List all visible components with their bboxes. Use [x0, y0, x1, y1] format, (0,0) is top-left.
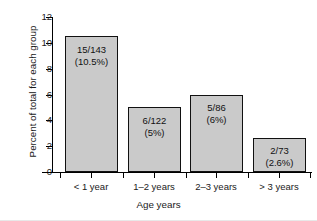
x-tick-4 — [310, 173, 311, 178]
y-tick-label-2: 2 — [36, 141, 52, 151]
x-tick-3 — [248, 173, 249, 178]
x-category-label-2: 2–3 years — [183, 181, 249, 192]
x-tick-center-2 — [216, 173, 217, 178]
y-tick-label-8: 8 — [36, 64, 52, 74]
y-tick-label-4: 4 — [36, 115, 52, 125]
bar-age-over-3-years[interactable] — [253, 138, 306, 172]
x-tick-0 — [60, 173, 61, 178]
x-category-label-0: < 1 year — [58, 181, 124, 192]
y-tick-label-6: 6 — [36, 90, 52, 100]
x-category-label-1: 1–2 years — [121, 181, 187, 192]
x-tick-center-0 — [91, 173, 92, 178]
bar-age-1-2-years[interactable] — [128, 107, 181, 172]
bar-age-under-1-year[interactable] — [65, 36, 118, 172]
x-tick-center-1 — [154, 173, 155, 178]
y-axis-line — [52, 17, 53, 173]
bar-chart-figure: Percent of total for each group 12 10 8 … — [0, 0, 317, 221]
x-tick-2 — [186, 173, 187, 178]
x-axis-line — [42, 172, 312, 173]
bar-age-2-3-years[interactable] — [190, 95, 243, 173]
x-tick-1 — [123, 173, 124, 178]
y-tick-label-10: 10 — [36, 38, 52, 48]
y-axis-title-container: Percent of total for each group — [12, 0, 26, 180]
bottom-rule — [0, 220, 317, 221]
x-category-label-3: > 3 years — [246, 181, 312, 192]
y-tick-label-12: 12 — [36, 12, 52, 22]
x-tick-center-3 — [279, 173, 280, 178]
x-axis-title: Age years — [0, 199, 317, 210]
